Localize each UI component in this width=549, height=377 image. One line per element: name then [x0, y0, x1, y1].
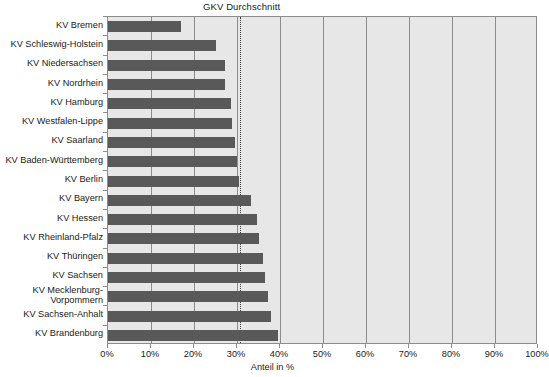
y-axis-label: KV Mecklenburg- Vorpommern: [0, 285, 103, 305]
y-axis-label: KV Bremen: [0, 20, 103, 30]
y-axis-label: KV Bayern: [0, 193, 103, 203]
x-axis-title: Anteil in %: [0, 362, 545, 372]
x-tick-label: 30%: [227, 349, 245, 359]
plot-area: [107, 16, 537, 344]
x-tick-label: 80%: [442, 349, 460, 359]
bar: [108, 272, 265, 283]
bar: [108, 330, 278, 341]
bar: [108, 156, 237, 167]
bar: [108, 21, 181, 32]
bar: [108, 60, 225, 71]
bar-row: [108, 176, 536, 187]
x-tick: [107, 344, 108, 348]
y-axis-label: KV Niedersachsen: [0, 58, 103, 68]
x-tick: [193, 344, 194, 348]
bar: [108, 214, 257, 225]
bar: [108, 118, 232, 129]
y-axis-label: KV Rheinland-Pfalz: [0, 232, 103, 242]
bar-row: [108, 233, 536, 244]
x-tick-label: 100%: [525, 349, 549, 359]
x-tick: [365, 344, 366, 348]
y-axis-label: KV Nordrhein: [0, 78, 103, 88]
y-axis-label: KV Sachsen-Anhalt: [0, 309, 103, 319]
bar-row: [108, 156, 536, 167]
bar-row: [108, 40, 536, 51]
bar: [108, 291, 268, 302]
x-tick-label: 60%: [356, 349, 374, 359]
y-axis-label: KV Saarland: [0, 135, 103, 145]
bar-row: [108, 311, 536, 322]
y-axis-label: KV Brandenburg: [0, 328, 103, 338]
bar: [108, 233, 259, 244]
bar-row: [108, 21, 536, 32]
bar: [108, 98, 231, 109]
x-tick-label: 40%: [270, 349, 288, 359]
bar-row: [108, 253, 536, 264]
bar: [108, 40, 216, 51]
x-tick: [494, 344, 495, 348]
bar-row: [108, 195, 536, 206]
bar-row: [108, 118, 536, 129]
bar-row: [108, 98, 536, 109]
bar-series: [108, 17, 536, 343]
x-tick: [408, 344, 409, 348]
bar: [108, 79, 225, 90]
bar: [108, 137, 235, 148]
y-axis-label: KV Hamburg: [0, 97, 103, 107]
bar-row: [108, 214, 536, 225]
bar: [108, 311, 271, 322]
x-tick: [537, 344, 538, 348]
bar: [108, 176, 239, 187]
bar-row: [108, 272, 536, 283]
bar-row: [108, 60, 536, 71]
y-axis-label: KV Schleswig-Holstein: [0, 39, 103, 49]
x-tick: [322, 344, 323, 348]
x-tick: [150, 344, 151, 348]
x-tick-label: 50%: [313, 349, 331, 359]
y-axis-label: KV Sachsen: [0, 270, 103, 280]
bar-row: [108, 291, 536, 302]
bar: [108, 195, 251, 206]
x-tick-label: 90%: [485, 349, 503, 359]
y-axis-label: KV Westfalen-Lippe: [0, 116, 103, 126]
y-axis-category-labels: KV BremenKV Schleswig-HolsteinKV Nieders…: [0, 16, 103, 344]
x-tick-label: 10%: [141, 349, 159, 359]
y-axis-label: KV Hessen: [0, 213, 103, 223]
x-tick-label: 20%: [184, 349, 202, 359]
bar-row: [108, 330, 536, 341]
gkv-average-line-label: GKV Durchschnitt: [203, 1, 280, 12]
bar-row: [108, 79, 536, 90]
x-tick-label: 0%: [100, 349, 113, 359]
x-tick: [236, 344, 237, 348]
bar-row: [108, 137, 536, 148]
y-axis-label: KV Baden-Württemberg: [0, 155, 103, 165]
x-tick-label: 70%: [399, 349, 417, 359]
y-axis-label: KV Berlin: [0, 174, 103, 184]
x-tick: [451, 344, 452, 348]
bar: [108, 253, 263, 264]
x-tick: [279, 344, 280, 348]
y-axis-label: KV Thüringen: [0, 251, 103, 261]
